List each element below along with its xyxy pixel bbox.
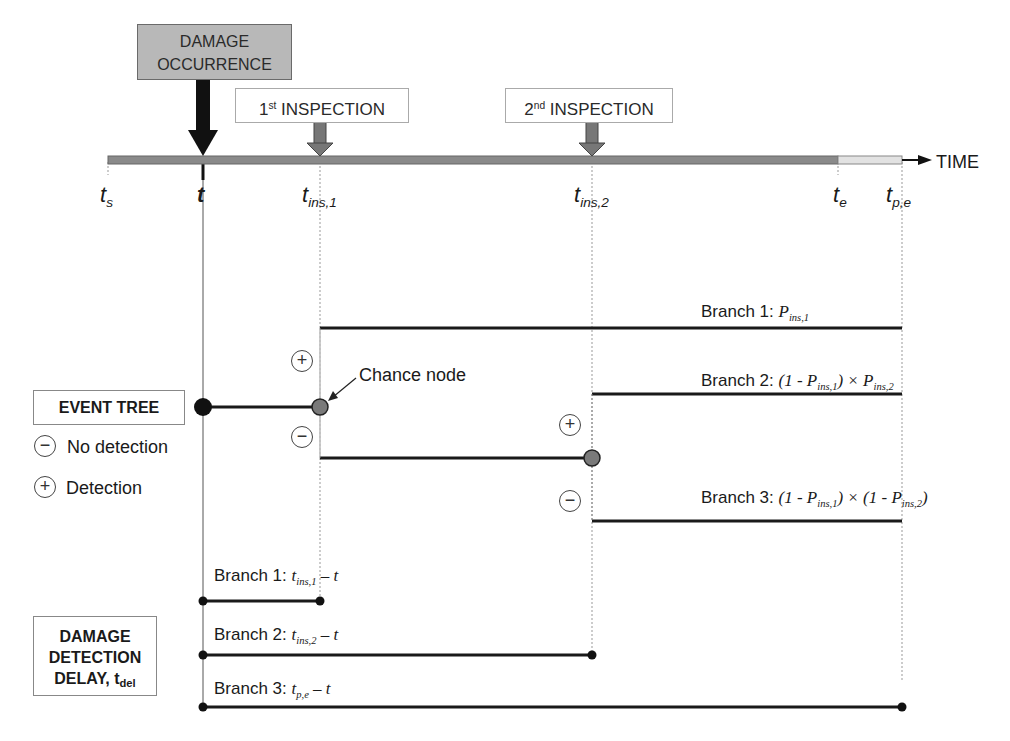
inspection-2-arrow-icon	[586, 122, 598, 144]
damage-box-line1: DAMAGE	[138, 30, 291, 53]
no-detection-marker-2: −	[559, 490, 581, 512]
no-detection-marker-1: −	[291, 426, 313, 448]
et-branch-1-label: Branch 1: Pins,1	[701, 303, 809, 323]
tick-tins1: tins,1	[302, 182, 337, 210]
inspection-2-sup: nd	[534, 100, 545, 111]
timeline-extension	[838, 156, 902, 164]
inspection-1-label: INSPECTION	[276, 100, 385, 119]
chance-node-pointer-icon	[328, 391, 338, 401]
chance-node-2	[584, 450, 600, 466]
chance-node-label: Chance node	[359, 366, 466, 384]
plus-icon: +	[34, 476, 56, 498]
tick-t: t	[197, 182, 204, 208]
chance-node-1	[312, 399, 328, 415]
damage-occurrence-box: DAMAGE OCCURRENCE	[137, 24, 292, 80]
inspection-2-label: INSPECTION	[545, 100, 654, 119]
inspection-1-arrow-icon	[314, 122, 326, 144]
event-tree-box: EVENT TREE	[33, 390, 185, 425]
detection-delay-box: DAMAGE DETECTION DELAY, tdel	[33, 616, 157, 696]
et-branch-2-label: Branch 2: (1 - Pins,1) × Pins,2	[701, 372, 894, 392]
time-axis-label: TIME	[936, 152, 979, 173]
delay-branch-1-label: Branch 1: tins,1 – t	[214, 567, 338, 587]
delay-title-line2: DETECTION	[34, 647, 156, 668]
detection-marker-1: +	[291, 350, 313, 372]
legend-no-detection: No detection	[67, 438, 168, 456]
inspection-2-box: 2nd INSPECTION	[505, 88, 673, 123]
tick-ts: ts	[100, 182, 113, 210]
timeline-bar	[108, 156, 838, 164]
inspection-1-box: 1st INSPECTION	[235, 88, 409, 123]
et-branch-3-label: Branch 3: (1 - Pins,1) × (1 - Pins,2)	[701, 489, 928, 509]
detection-marker-2: +	[559, 414, 581, 436]
delay-branch-2-label: Branch 2: tins,2 – t	[214, 626, 338, 646]
legend-detection: Detection	[66, 479, 142, 497]
inspection-2-ordinal: 2	[524, 100, 533, 119]
delay-title-line3: DELAY, tdel	[34, 668, 156, 694]
minus-icon: −	[34, 435, 56, 457]
delay-title-line1: DAMAGE	[34, 626, 156, 647]
tick-tins2: tins,2	[574, 182, 609, 210]
time-arrow-icon	[918, 155, 932, 165]
root-node	[194, 398, 212, 416]
tick-te: te	[833, 182, 847, 210]
damage-arrow-icon	[188, 130, 218, 156]
damage-box-line2: OCCURRENCE	[138, 53, 291, 76]
delay-branch-3-label: Branch 3: tp,e – t	[214, 680, 331, 700]
tick-tpe: tp,e	[886, 182, 911, 210]
